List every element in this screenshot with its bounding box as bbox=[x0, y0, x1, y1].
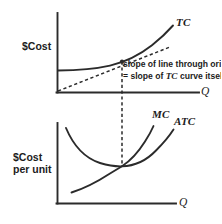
top-chart-x-axis-label: Q bbox=[201, 85, 209, 98]
tc-curve-label: TC bbox=[176, 16, 190, 28]
annotation-line-2-tc-term: TC bbox=[166, 71, 178, 81]
bottom-chart-x-axis-label: Q bbox=[179, 196, 187, 209]
annotation-line-2-suffix: curve itself bbox=[178, 71, 222, 81]
annotation-line-2: = slope of TC curve itself bbox=[123, 71, 221, 82]
bottom-chart-y-axis-label-line2: per unit bbox=[13, 164, 52, 176]
atc-curve bbox=[66, 128, 174, 166]
atc-curve-label: ATC bbox=[174, 115, 195, 127]
figure-canvas bbox=[0, 0, 221, 224]
annotation-line-2-prefix: = slope of bbox=[123, 71, 166, 81]
bottom-chart-group bbox=[57, 123, 177, 204]
annotation-line-1: slope of line through origin bbox=[123, 60, 221, 70]
mc-curve bbox=[72, 126, 154, 193]
mc-curve-label: MC bbox=[152, 108, 170, 120]
top-chart-y-axis-label: $Cost bbox=[22, 41, 51, 53]
bottom-chart-y-axis-label: $Cost per unit bbox=[13, 152, 52, 176]
bottom-chart-y-axis-label-line1: $Cost bbox=[13, 152, 52, 164]
cost-curves-figure: $Cost $Cost per unit TC MC ATC Q Q slope… bbox=[0, 0, 221, 224]
